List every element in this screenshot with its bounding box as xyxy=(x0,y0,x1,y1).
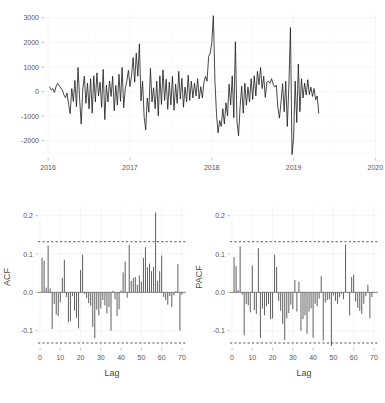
timeseries-ytick-label: 1000 xyxy=(23,64,39,71)
pacf-xaxis-title: Lag xyxy=(296,368,311,378)
pacf-xtick-label: 40 xyxy=(309,354,317,361)
timeseries-xtick-label: 2016 xyxy=(40,164,56,171)
acf-ytick-label: 0.0 xyxy=(23,289,33,296)
pacf-xtick-label: 20 xyxy=(269,354,277,361)
acf-xtick-label: 0 xyxy=(38,354,42,361)
acf-xaxis-title: Lag xyxy=(104,368,119,378)
acf-xtick-label: 50 xyxy=(137,354,145,361)
timeseries-xtick-label: 2017 xyxy=(122,164,138,171)
acf-ytick-label: -0.1 xyxy=(21,327,33,334)
acf-panel: -0.10.00.10.2010203040506070LagACF xyxy=(0,190,192,403)
timeseries-ytick-label: -2000 xyxy=(21,137,39,144)
pacf-ytick-label: 0.2 xyxy=(215,212,225,219)
pacf-ytick-label: 0.0 xyxy=(215,289,225,296)
acf-ytick-label: 0.2 xyxy=(23,212,33,219)
timeseries-plot-background xyxy=(44,14,377,158)
pacf-xtick-label: 70 xyxy=(370,354,378,361)
pacf-yaxis-title: PACF xyxy=(194,265,204,289)
pacf-xtick-label: 60 xyxy=(350,354,358,361)
timeseries-xtick-label: 2018 xyxy=(204,164,220,171)
pacf-ytick-label: 0.1 xyxy=(215,251,225,258)
acf-ytick-label: 0.1 xyxy=(23,251,33,258)
pacf-xtick-label: 30 xyxy=(289,354,297,361)
timeseries-ytick-label: 2000 xyxy=(23,39,39,46)
time-series-diagnostics-figure: -2000-1000010002000300020162017201820192… xyxy=(0,0,385,403)
pacf-panel: -0.10.00.10.2010203040506070LagPACF xyxy=(192,190,385,403)
acf-xtick-label: 60 xyxy=(158,354,166,361)
pacf-xtick-label: 50 xyxy=(329,354,337,361)
timeseries-ytick-label: -1000 xyxy=(21,113,39,120)
acf-xtick-label: 40 xyxy=(117,354,125,361)
acf-xtick-label: 10 xyxy=(56,354,64,361)
timeseries-panel: -2000-1000010002000300020162017201820192… xyxy=(0,0,385,190)
acf-xtick-label: 30 xyxy=(97,354,105,361)
pacf-ytick-label: -0.1 xyxy=(213,327,225,334)
pacf-xtick-label: 10 xyxy=(248,354,256,361)
timeseries-ytick-label: 0 xyxy=(35,88,39,95)
timeseries-xtick-label: 2019 xyxy=(286,164,302,171)
pacf-xtick-label: 0 xyxy=(230,354,234,361)
acf-yaxis-title: ACF xyxy=(2,267,12,286)
timeseries-xtick-label: 2020 xyxy=(368,164,384,171)
acf-xtick-label: 20 xyxy=(77,354,85,361)
timeseries-ytick-label: 3000 xyxy=(23,14,39,21)
acf-xtick-label: 70 xyxy=(178,354,186,361)
